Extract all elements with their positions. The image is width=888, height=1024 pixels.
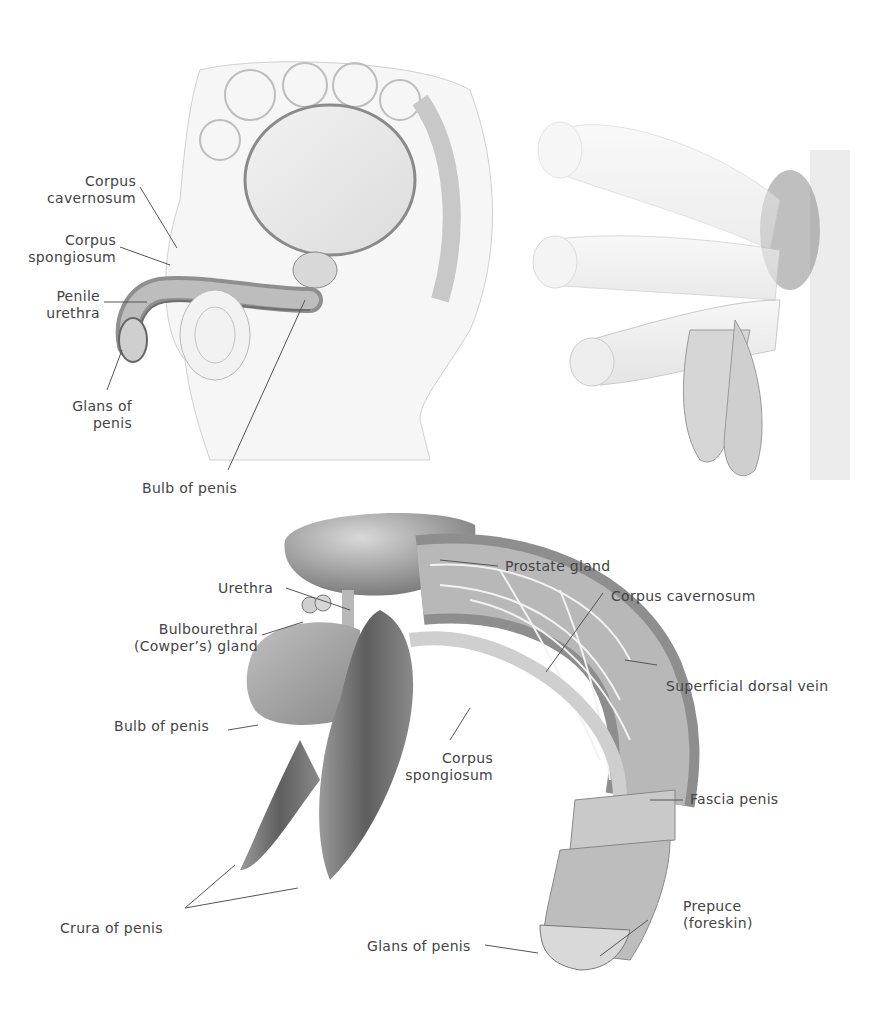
label-glans-of-penis: Glans of penis	[30, 398, 132, 432]
label-bulbourethral-gland: Bulbourethral (Cowper’s) gland	[126, 621, 258, 655]
label-prostate-gland: Prostate gland	[505, 558, 610, 575]
label-prepuce-foreskin: Prepuce (foreskin)	[683, 898, 753, 932]
internal-structures-panel: Prostate gland Urethra Bulbourethral (Co…	[0, 500, 888, 1024]
label-corpus-spongiosum: Corpus spongiosum	[20, 232, 116, 266]
label-penile-urethra: Penile urethra	[20, 288, 100, 322]
external-view-panel	[520, 0, 888, 500]
sagittal-section-panel: Corpus cavernosum Corpus spongiosum Peni…	[0, 0, 520, 500]
label-bulb-of-penis: Bulb of penis	[114, 718, 209, 735]
label-fascia-penis: Fascia penis	[690, 791, 778, 808]
label-crura-of-penis: Crura of penis	[60, 920, 163, 937]
label-bulb-of-penis-sagittal: Bulb of penis	[142, 480, 237, 497]
label-corpus-cavernosum: Corpus cavernosum	[611, 588, 756, 605]
label-superficial-dorsal-vein: Superficial dorsal vein	[666, 678, 828, 695]
label-corpus-spongiosum: Corpus spongiosum	[393, 750, 493, 784]
label-glans-of-penis: Glans of penis	[367, 938, 471, 955]
label-urethra: Urethra	[218, 580, 273, 597]
label-corpus-cavernosum: Corpus cavernosum	[40, 173, 136, 207]
external-view-illustration	[520, 0, 888, 500]
